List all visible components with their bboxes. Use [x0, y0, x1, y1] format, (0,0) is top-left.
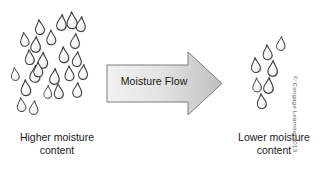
high-moisture-caption: Higher moisture content [2, 131, 112, 157]
low-moisture-caption: Lower moisture content [226, 131, 322, 157]
moisture-flow-figure: Moisture Flow Higher moisture content Lo… [0, 0, 326, 175]
arrow-label: Moisture Flow [110, 75, 198, 87]
copyright-notice: © Cengage Learning 2013 [292, 76, 299, 168]
